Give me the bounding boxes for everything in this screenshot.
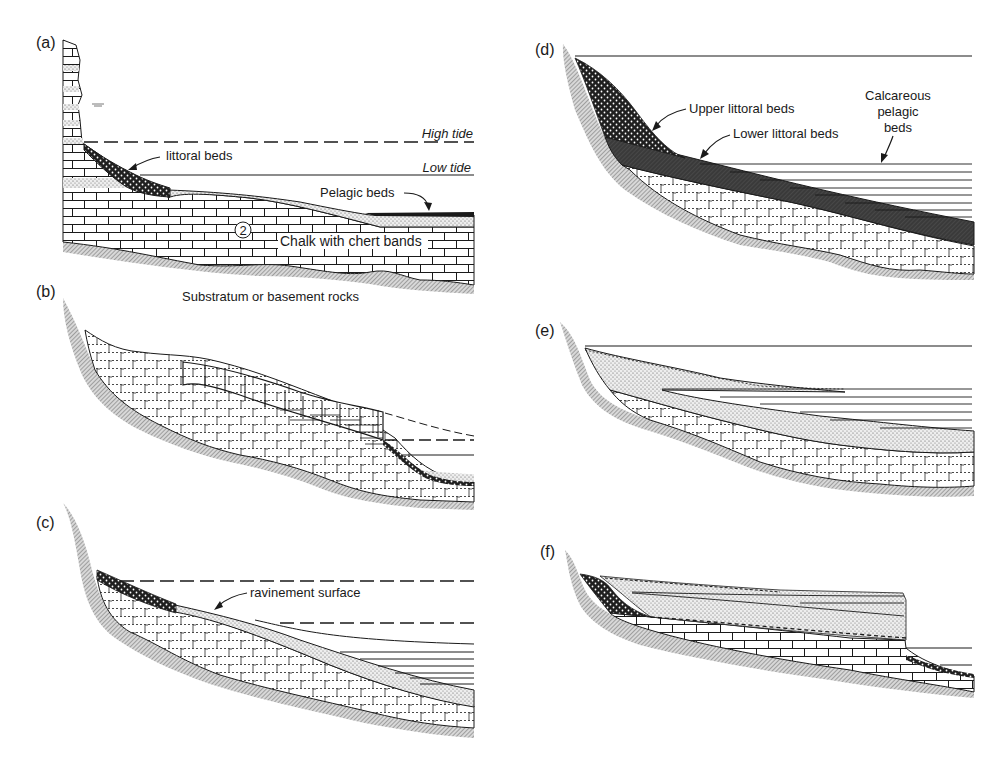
panel-label-b: (b) <box>36 283 56 300</box>
calcareous-label-3: beds <box>884 120 913 135</box>
ravinement-arrow <box>218 593 247 606</box>
panel-a: (a) High tide Low tide littoral beds Pel… <box>36 34 474 304</box>
calcareous-label-1: Calcareous <box>865 88 931 103</box>
panel-b: (b) <box>36 283 474 510</box>
pelagic-beds-label: Pelagic beds <box>320 185 395 200</box>
substratum-label: Substratum or basement rocks <box>182 289 360 304</box>
upper-littoral-arrow <box>656 109 686 126</box>
panel-label-a: (a) <box>36 34 56 51</box>
arrow-head-icon <box>424 202 432 211</box>
panel-label-d: (d) <box>535 41 555 58</box>
arrow-head-icon <box>881 153 888 163</box>
cliff-band <box>63 138 83 144</box>
panel-e: (e) <box>535 322 974 497</box>
panel-c: ravinement surface (c) <box>36 503 474 738</box>
pelagic-arrow <box>404 193 428 206</box>
ravinement-label: ravinement surface <box>250 585 361 600</box>
littoral-beds-label: littoral beds <box>166 148 233 163</box>
panel-label-c: (c) <box>36 514 55 531</box>
chalk-label: Chalk with chert bands <box>280 233 422 249</box>
lower-littoral-label: Lower littoral beds <box>733 126 839 141</box>
arrow-head-icon <box>700 149 709 159</box>
low-tide-label: Low tide <box>423 160 471 175</box>
arrow-head-icon <box>128 163 137 170</box>
cliff-band <box>63 104 79 110</box>
lower-littoral-arrow <box>704 135 730 154</box>
high-tide-label: High tide <box>422 126 473 141</box>
water-level-symbol <box>92 104 104 106</box>
calcareous-label-2: pelagic <box>877 104 919 119</box>
panel-f: (f) <box>540 543 974 698</box>
diagram-canvas: (a) High tide Low tide littoral beds Pel… <box>0 0 1004 757</box>
chalk-block <box>85 330 474 502</box>
panel-label-e: (e) <box>535 322 555 339</box>
upper-littoral-label: Upper littoral beds <box>689 101 795 116</box>
cliff-band <box>63 120 79 126</box>
paleo-surface-dashed <box>385 413 474 436</box>
arrow-head-icon <box>214 601 223 610</box>
panel-label-f: (f) <box>540 543 555 560</box>
cliff-band <box>63 86 79 92</box>
circled-number-text: 2 <box>239 223 246 238</box>
panel-d: (d) Upper littoral beds Lower littoral b… <box>535 41 974 280</box>
figure: (a) High tide Low tide littoral beds Pel… <box>0 0 1004 757</box>
cliff-band <box>63 65 79 71</box>
